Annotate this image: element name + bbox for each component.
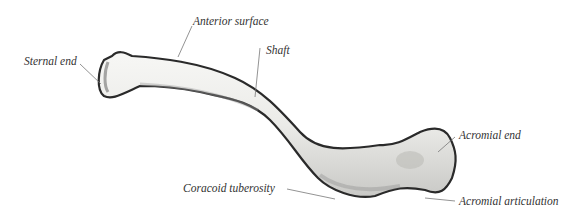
label-anterior-surface: Anterior surface [193, 15, 269, 27]
label-sternal-end: Sternal end [24, 55, 77, 67]
label-coracoid-tuberosity: Coracoid tuberosity [183, 182, 275, 194]
leader-anterior-surface [178, 26, 192, 57]
label-shaft: Shaft [266, 44, 290, 56]
clavicle-bone [99, 52, 456, 197]
leader-coracoid-tuberosity [287, 189, 335, 199]
label-acromial-articulation: Acromial articulation [459, 195, 559, 207]
label-acromial-end: Acromial end [459, 129, 521, 141]
leader-sternal-end [80, 64, 101, 84]
clavicle-diagram: Sternal end Anterior surface Shaft Acrom… [0, 0, 581, 223]
leader-shaft [255, 48, 260, 97]
clavicle-illustration [0, 0, 581, 223]
leader-acromial-articulation [425, 198, 455, 201]
